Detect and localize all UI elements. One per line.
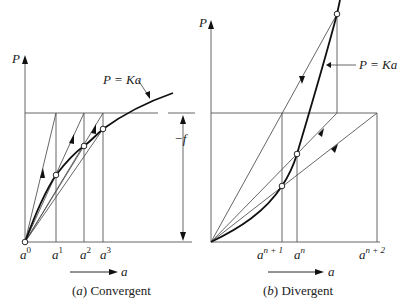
ray-arrow-icon <box>91 124 96 134</box>
tick-label-a1: a1 <box>52 248 63 261</box>
dimension-label: −f <box>174 132 186 145</box>
diagram-graphics <box>0 0 403 308</box>
iterate-marker <box>22 239 28 245</box>
iterate-marker <box>294 151 300 157</box>
ray-steep <box>211 14 337 242</box>
a-axis-arrow-icon <box>109 269 118 275</box>
caption-convergent: (a) Convergent <box>72 284 151 297</box>
tick-label-an: an <box>294 248 305 261</box>
ray-arrow-icon <box>299 76 305 84</box>
curve-p-ka <box>211 0 340 242</box>
ray-arrow-icon <box>69 134 74 144</box>
tick-label-a3: a3 <box>100 248 111 261</box>
secant-1 <box>25 146 84 242</box>
f-arrow-down-icon <box>180 232 186 241</box>
iterate-marker <box>81 143 87 149</box>
panel-convergent <box>22 55 195 275</box>
panel-divergent <box>208 0 380 275</box>
tick-label-a0: a0 <box>20 248 31 261</box>
iterate-marker <box>100 126 106 132</box>
tick-label-an2: an + 2 <box>359 248 385 261</box>
iteration-diagram: P P = Ka −f a0 a1 a2 a3 a (a) Convergent… <box>0 0 403 308</box>
caption-divergent: (b) Divergent <box>263 284 333 297</box>
x-axis-label: a <box>328 265 335 278</box>
iterate-marker <box>334 11 340 17</box>
iterate-marker <box>53 172 59 178</box>
curve-label: P = Ka <box>103 73 141 86</box>
y-axis-label: P <box>199 16 207 29</box>
ray-arrow-icon <box>331 144 338 153</box>
tick-label-a2: a2 <box>80 248 91 261</box>
secant-2 <box>25 129 103 242</box>
p-axis-arrow-icon <box>22 55 28 64</box>
y-axis-label: P <box>12 52 20 65</box>
ray-low <box>211 113 377 242</box>
x-axis-label: a <box>121 265 128 278</box>
curve-label: P = Ka <box>359 58 397 71</box>
iterate-marker <box>279 183 285 189</box>
curve-p-ka <box>25 93 173 242</box>
f-arrow-up-icon <box>180 115 186 124</box>
tick-label-an1: an + 1 <box>257 248 283 261</box>
a-axis-arrow-icon <box>315 269 324 275</box>
p-axis-arrow-icon <box>208 20 214 29</box>
ray-mid <box>211 113 337 242</box>
